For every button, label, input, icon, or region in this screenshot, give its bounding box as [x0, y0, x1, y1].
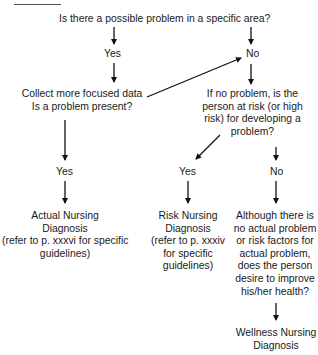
risk-no-label: No — [270, 166, 283, 179]
q1-yes-label: Yes — [104, 48, 121, 61]
wellness-question-node: Although there is no actual problem or r… — [232, 210, 318, 298]
collect-data-node: Collect more focused data Is a problem p… — [18, 88, 146, 113]
arrow-riskq-yes — [196, 135, 220, 159]
risk-nursing-diagnosis: Risk Nursing Diagnosis (refer to p. xxxi… — [144, 210, 232, 273]
actual-nursing-diagnosis: Actual Nursing Diagnosis (refer to p. xx… — [2, 210, 128, 260]
collect-yes-label: Yes — [56, 166, 73, 179]
q1-no-label: No — [246, 48, 259, 61]
question-possible-problem: Is there a possible problem in a specifi… — [59, 13, 270, 26]
risk-question-node: If no problem, is the person at risk (or… — [200, 88, 305, 138]
risk-yes-label: Yes — [179, 166, 196, 179]
wellness-nursing-diagnosis: Wellness Nursing Diagnosis — [232, 327, 318, 352]
